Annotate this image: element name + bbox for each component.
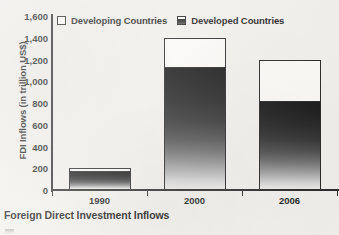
bar-segment-developed[interactable]	[164, 68, 226, 190]
legend-item-developing: Developing Countries	[57, 15, 167, 26]
legend-label-developed: Developed Countries	[191, 15, 284, 26]
cut-off-text-sliver	[5, 229, 14, 234]
y-tick-label: 600	[2, 119, 48, 130]
bar-group[interactable]	[164, 38, 226, 190]
bar-segment-developed[interactable]	[259, 102, 321, 190]
legend-label-developing: Developing Countries	[71, 15, 167, 26]
bar-group[interactable]	[259, 60, 321, 191]
x-axis-tick	[242, 190, 243, 196]
y-tick-label: 400	[2, 141, 48, 152]
y-tick-label: 0	[2, 185, 48, 196]
y-tick-label: 1,400	[2, 32, 48, 43]
y-tick-label: 800	[2, 98, 48, 109]
legend-item-developed: Developed Countries	[177, 15, 284, 26]
x-tick-label: 2006	[250, 195, 330, 206]
x-axis-tick	[337, 190, 338, 196]
bar-segment-developed[interactable]	[69, 172, 131, 190]
y-axis-tick-labels: 02004006008001,0001,2001,4001,600	[0, 0, 48, 235]
white-square-icon	[57, 16, 66, 25]
x-axis-tick	[52, 190, 53, 196]
x-tick-label: 2000	[155, 195, 235, 206]
y-tick-label: 1,200	[2, 54, 48, 65]
y-tick-label: 1,600	[2, 11, 48, 22]
gradient-square-icon	[177, 16, 186, 25]
bar-group[interactable]	[69, 168, 131, 190]
bar-segment-developing[interactable]	[259, 60, 321, 102]
bar-segment-developing[interactable]	[164, 38, 226, 68]
chart-legend: Developing Countries Developed Countries	[57, 15, 284, 26]
y-tick-label: 1,000	[2, 76, 48, 87]
x-axis-tick	[147, 190, 148, 196]
figure-caption: Foreign Direct Investment Inflows	[4, 209, 169, 221]
x-tick-label: 1990	[60, 195, 140, 206]
y-tick-label: 200	[2, 163, 48, 174]
fdi-inflows-chart-figure: FDI Inflows (in trillion US$) 0200400600…	[0, 0, 339, 235]
